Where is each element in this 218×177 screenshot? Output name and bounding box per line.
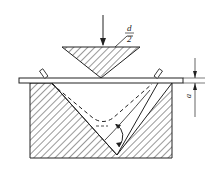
label-d: d	[127, 23, 132, 33]
gap-dimension	[183, 58, 205, 117]
force-arrow	[100, 15, 106, 46]
radius-leader-line	[115, 36, 127, 47]
label-2: 2	[127, 34, 132, 44]
punch	[62, 47, 140, 78]
die	[30, 83, 172, 158]
v-die-bending-diagram: d 2 a	[0, 0, 218, 177]
rotation-arc	[115, 124, 123, 147]
sheet-blank	[19, 78, 183, 83]
label-a: a	[184, 94, 193, 98]
